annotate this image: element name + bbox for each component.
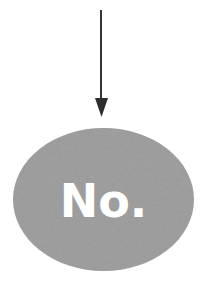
arrowhead-icon	[95, 98, 108, 117]
down-arrow-connector	[95, 10, 108, 117]
node-label-no: No.	[13, 128, 194, 271]
